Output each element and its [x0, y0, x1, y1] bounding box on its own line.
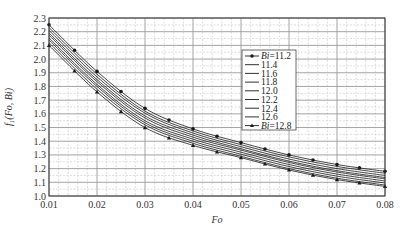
y-tick-label: 2.0: [34, 54, 47, 65]
data-series: [47, 23, 387, 188]
y-tick-label: 2.3: [34, 13, 47, 24]
x-tick-label: 0.01: [40, 199, 58, 210]
series-line: [49, 33, 385, 177]
x-tick-label: 0.03: [136, 199, 154, 210]
y-tick-label: 1.1: [34, 177, 47, 188]
x-tick-label: 0.07: [328, 199, 346, 210]
x-tick-label: 0.04: [184, 199, 202, 210]
grid: [49, 18, 385, 196]
x-tick-label: 0.06: [280, 199, 298, 210]
svg-text:f1(Fo, Bi): f1(Fo, Bi): [3, 87, 16, 126]
series-line: [49, 25, 385, 172]
y-tick-label: 1.6: [34, 108, 47, 119]
y-tick-label: 2.2: [34, 26, 47, 37]
x-tick-label: 0.05: [232, 199, 250, 210]
legend: Bi=11.211.411.611.812.012.212.412.6Bi=12…: [242, 50, 296, 131]
marker-circle: [167, 118, 171, 122]
y-tick-label: 1.7: [34, 95, 47, 106]
y-label-args: (Fo: [3, 105, 15, 119]
y-tick-label: 1.8: [34, 81, 47, 92]
marker-circle: [335, 163, 339, 167]
x-tick-label: 0.02: [88, 199, 106, 210]
x-axis-ticks: 0.010.020.030.040.050.060.070.08: [40, 199, 394, 210]
legend-label: Bi=12.8: [261, 121, 292, 131]
marker-circle: [239, 141, 243, 145]
y-axis-ticks: 1.01.11.21.31.41.51.61.71.81.92.02.12.22…: [34, 13, 47, 202]
y-tick-label: 1.2: [34, 163, 47, 174]
y-tick-label: 1.9: [34, 67, 47, 78]
x-axis-label: Fo: [210, 214, 222, 225]
y-tick-label: 2.1: [34, 40, 47, 51]
y-tick-label: 1.5: [34, 122, 47, 133]
y-axis-label: f1(Fo, Bi): [3, 87, 16, 126]
line-chart: 1.01.11.21.31.41.51.61.71.81.92.02.12.22…: [0, 0, 409, 229]
y-tick-label: 1.3: [34, 149, 47, 160]
x-tick-label: 0.08: [376, 199, 394, 210]
legend-marker-circle: [250, 54, 253, 57]
y-tick-label: 1.4: [34, 136, 47, 147]
marker-circle: [358, 166, 362, 170]
marker-circle: [143, 107, 147, 111]
series-line: [49, 45, 385, 186]
